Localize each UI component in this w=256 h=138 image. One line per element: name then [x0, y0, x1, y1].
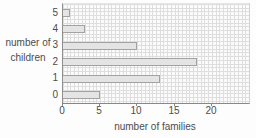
x-tick-label: 20 [205, 105, 216, 117]
y-tick-label: 2 [44, 56, 58, 67]
bar-children-0 [63, 91, 100, 99]
x-axis-title: number of families [62, 121, 248, 132]
x-tick-label: 5 [96, 105, 102, 117]
y-tick-label: 0 [44, 89, 58, 100]
bar-children-4 [63, 25, 85, 33]
y-tick-label: 4 [44, 23, 58, 34]
plot-area [62, 3, 250, 104]
y-tick-label: 5 [44, 7, 58, 18]
x-tick-label: 10 [130, 105, 141, 117]
y-tick-label: 1 [44, 72, 58, 83]
bar-children-2 [63, 58, 197, 66]
bar-children-5 [63, 9, 70, 17]
x-tick-label: 0 [59, 105, 65, 117]
bar-chart: number of children 543210 05101520 numbe… [0, 0, 256, 138]
bar-children-3 [63, 42, 137, 50]
bar-children-1 [63, 75, 160, 83]
y-tick-label: 3 [44, 39, 58, 50]
x-tick-label: 15 [168, 105, 179, 117]
